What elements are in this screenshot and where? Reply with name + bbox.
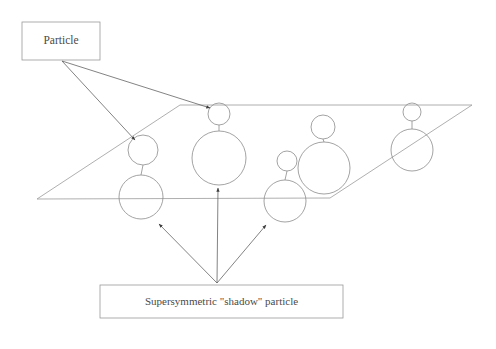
pair-connector-1 xyxy=(141,165,143,175)
particle-circle-3 xyxy=(277,151,297,171)
particle-pair-5 xyxy=(391,103,433,171)
pair-connector-3 xyxy=(285,171,287,180)
arrow-shadow-3 xyxy=(217,225,266,283)
shadow-particle-circle-5 xyxy=(391,129,433,171)
shadow-particle-circle-1 xyxy=(119,175,163,219)
arrow-group xyxy=(62,61,266,283)
shadow-particle-circle-2 xyxy=(192,131,246,185)
shadow-label-box: Supersymmetric "shadow" particle xyxy=(100,285,343,318)
diagram-canvas: Particle Supersymmetric "shadow" particl… xyxy=(0,0,496,349)
shadow-particle-circle-4 xyxy=(298,142,350,194)
shadow-particle-circle-3 xyxy=(264,180,306,222)
particle-pair-group xyxy=(119,103,433,222)
particle-pair-3 xyxy=(264,151,306,222)
particle-label-box: Particle xyxy=(22,22,100,60)
arrow-shadow-2 xyxy=(217,188,218,283)
particle-circle-2 xyxy=(208,103,230,125)
particle-circle-5 xyxy=(403,103,421,121)
particle-circle-4 xyxy=(311,115,335,139)
particle-pair-2 xyxy=(192,103,246,185)
particle-box-label: Particle xyxy=(43,34,78,46)
particle-pair-4 xyxy=(298,115,350,194)
particle-circle-1 xyxy=(128,135,158,165)
pair-connector-4 xyxy=(323,139,324,142)
particle-pair-1 xyxy=(119,135,163,219)
arrow-shadow-1 xyxy=(159,224,217,283)
shadow-box-label: Supersymmetric "shadow" particle xyxy=(145,295,298,307)
supersymmetry-diagram: Particle Supersymmetric "shadow" particl… xyxy=(0,0,496,349)
